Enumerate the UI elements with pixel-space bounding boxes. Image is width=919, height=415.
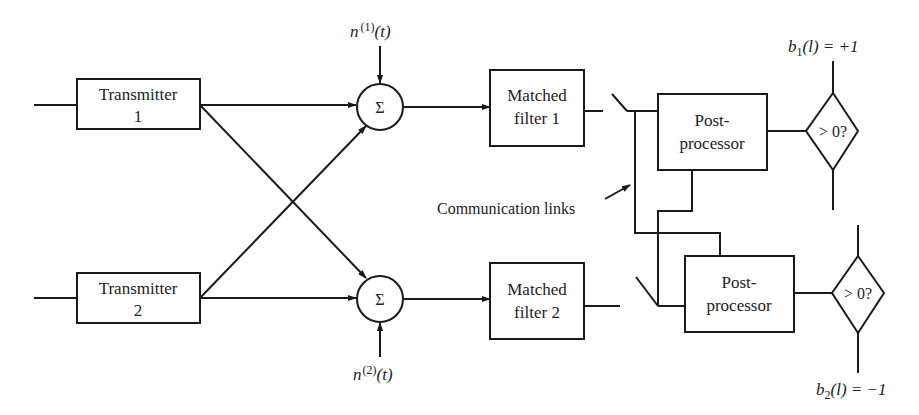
decision-1-output-label: b1(l) = +1 — [788, 37, 859, 59]
post-processor-2-label-line1: Post- — [722, 273, 757, 292]
block-diagram: Transmitter 1 Transmitter 2 Σ n(1)(t) Σ … — [0, 0, 919, 415]
communication-link-switch-2 — [636, 170, 692, 306]
transmitter-2-number: 2 — [134, 301, 143, 320]
tx2-to-sum1-arrow — [200, 126, 366, 298]
communication-links-pointer-arrow — [605, 185, 630, 199]
transmitter-1-label: Transmitter — [99, 85, 178, 104]
post-processor-2-block: Post- processor — [685, 256, 794, 332]
matched-filter-1-label-line1: Matched — [507, 86, 567, 105]
communication-links-label: Communication links — [437, 200, 575, 217]
transmitter-2-block: Transmitter 2 — [77, 273, 200, 323]
matched-filter-2-label-line1: Matched — [507, 280, 567, 299]
sigma-icon: Σ — [375, 291, 384, 308]
decision-2-diamond: > 0? — [832, 256, 884, 333]
decision-1-diamond: > 0? — [806, 93, 858, 170]
noise-2-label: n(2)(t) — [353, 363, 393, 384]
transmitter-1-number: 1 — [134, 107, 143, 126]
matched-filter-2-label-line2: filter 2 — [514, 303, 560, 322]
summer-2: Σ — [357, 276, 403, 322]
sigma-icon: Σ — [375, 99, 384, 116]
transmitter-1-block: Transmitter 1 — [77, 79, 200, 129]
summer-1: Σ — [357, 84, 403, 130]
matched-filter-1-label-line2: filter 1 — [514, 109, 560, 128]
post-processor-2-label-line2: processor — [706, 296, 771, 315]
matched-filter-1-block: Matched filter 1 — [490, 70, 584, 146]
post-processor-1-label-line2: processor — [679, 134, 744, 153]
decision-2-output-label: b2(l) = −1 — [816, 380, 887, 402]
decision-1-label: > 0? — [819, 123, 847, 140]
post-processor-1-block: Post- processor — [658, 94, 767, 170]
noise-1-label: n(1)(t) — [350, 20, 391, 41]
matched-filter-2-block: Matched filter 2 — [490, 263, 584, 339]
post-processor-1-label-line1: Post- — [695, 111, 730, 130]
tx1-to-sum2-arrow — [200, 105, 366, 278]
decision-2-label: > 0? — [844, 285, 872, 302]
transmitter-2-label: Transmitter — [99, 279, 178, 298]
